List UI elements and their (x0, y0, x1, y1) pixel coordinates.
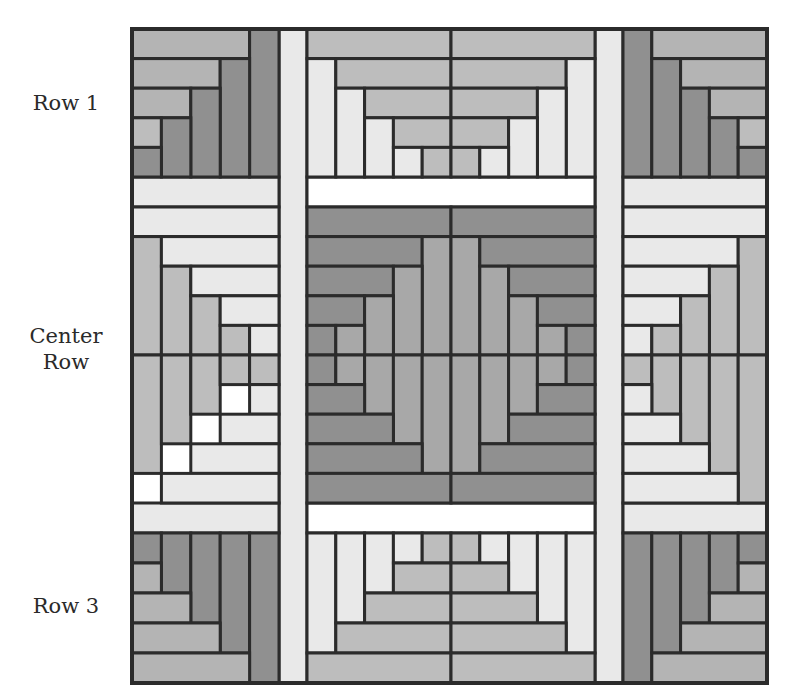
sashing-strip (307, 177, 595, 207)
log-strip (652, 325, 681, 355)
block-row1-right (623, 29, 767, 177)
log-strip (537, 325, 566, 355)
log-strip (365, 88, 451, 118)
log-strip (738, 118, 767, 148)
log-strip (480, 147, 509, 177)
log-strip (451, 473, 595, 503)
log-strip (652, 533, 681, 653)
log-strip (681, 533, 710, 623)
log-strip (509, 355, 538, 414)
log-strip (250, 325, 279, 355)
log-strip (132, 207, 279, 237)
log-strip (161, 533, 190, 593)
log-strip (132, 29, 250, 59)
log-strip (509, 414, 595, 444)
log-strip (451, 207, 595, 237)
log-strip (738, 355, 767, 503)
log-strip (451, 147, 480, 177)
log-strip (307, 29, 451, 59)
log-strip (681, 88, 710, 177)
log-strip (191, 296, 220, 355)
log-strip (393, 563, 451, 593)
log-strip (480, 355, 509, 444)
log-strip (480, 237, 595, 267)
log-strip (422, 147, 451, 177)
log-strip (191, 444, 279, 474)
log-strip (132, 59, 220, 89)
log-strip (365, 593, 451, 623)
sashing-strip (132, 177, 279, 207)
block-row3-left (132, 533, 279, 683)
log-strip (623, 533, 652, 683)
log-strip (393, 533, 422, 563)
log-strip (161, 473, 279, 503)
log-strip (451, 623, 566, 653)
log-strip (336, 59, 451, 89)
log-strip (132, 237, 161, 355)
log-strip (393, 147, 422, 177)
block-center-left-top (132, 207, 279, 355)
log-strip (451, 563, 509, 593)
log-strip (307, 237, 422, 267)
log-strip (451, 355, 480, 473)
log-strip (509, 118, 538, 177)
log-strip (566, 325, 595, 355)
log-strip (451, 237, 480, 355)
log-strip (509, 533, 538, 593)
log-strip (623, 296, 681, 326)
log-strip (422, 237, 451, 355)
log-strip (365, 533, 394, 593)
log-strip (220, 296, 279, 326)
log-strip (191, 355, 220, 414)
log-strip (191, 266, 279, 296)
log-strip (422, 533, 451, 563)
log-strip (652, 355, 681, 414)
log-strip (623, 29, 652, 177)
log-strip (623, 355, 652, 385)
log-strip (365, 355, 394, 414)
log-strip (336, 88, 365, 177)
log-strip (652, 29, 767, 59)
log-strip (451, 29, 595, 59)
log-cabin-quilt-diagram (0, 0, 791, 698)
log-strip (336, 355, 365, 385)
block-row1-left (132, 29, 279, 177)
log-strip (451, 653, 595, 683)
log-strip (307, 325, 336, 355)
log-strip (132, 653, 250, 683)
log-strip (451, 533, 480, 563)
log-strip (537, 88, 566, 177)
sashing-strip (595, 29, 623, 683)
log-strip (191, 533, 220, 623)
log-strip (480, 266, 509, 355)
sashing-strip (279, 29, 307, 683)
log-strip (681, 623, 767, 653)
log-strip (709, 355, 738, 473)
log-strip (307, 473, 451, 503)
log-strip (132, 593, 191, 623)
log-strip (566, 533, 595, 653)
log-strip (451, 59, 566, 89)
log-strip (220, 325, 249, 355)
log-strip (220, 533, 249, 653)
log-strip (537, 296, 595, 326)
log-strip (537, 385, 595, 415)
log-strip (307, 653, 451, 683)
log-strip (451, 593, 537, 623)
log-strip (738, 237, 767, 355)
block-center-right-top (623, 207, 767, 355)
log-strip (623, 325, 652, 355)
log-strip (623, 444, 709, 474)
log-strip (566, 355, 595, 385)
log-strip (336, 325, 365, 355)
log-strip (250, 385, 279, 415)
log-strip (132, 533, 161, 563)
log-strip (509, 296, 538, 355)
log-strip (451, 118, 509, 148)
log-strip (307, 266, 393, 296)
log-strip (738, 533, 767, 563)
log-strip (250, 533, 279, 683)
log-strip (681, 59, 767, 89)
log-strip (132, 118, 161, 148)
log-strip (365, 118, 394, 177)
